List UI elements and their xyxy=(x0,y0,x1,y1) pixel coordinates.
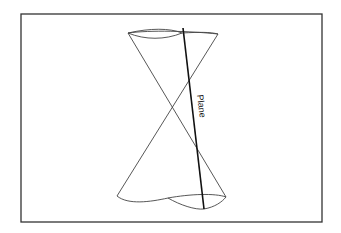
upper-cone-rim xyxy=(128,29,218,38)
lower-cone-rim-front xyxy=(168,197,226,209)
diagram-frame xyxy=(21,14,322,222)
double-cone-diagram: Plane xyxy=(0,0,341,233)
plane-line xyxy=(183,28,204,209)
cone-generator-left xyxy=(128,33,226,197)
plane-label: Plane xyxy=(195,94,208,118)
lower-cone-rim xyxy=(117,194,226,201)
upper-cone-rim-back xyxy=(128,31,218,34)
